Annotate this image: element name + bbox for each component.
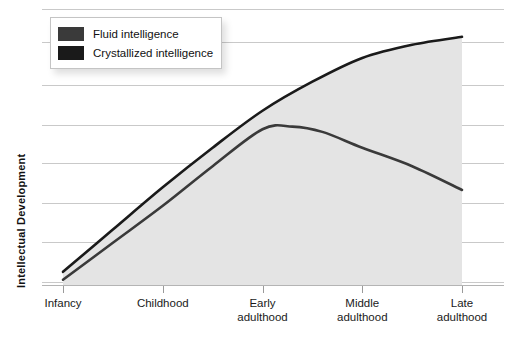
legend-item-0[interactable]: Fluid intelligence bbox=[58, 24, 213, 43]
chart-legend: Fluid intelligenceCrystallized intellige… bbox=[50, 17, 222, 69]
x-axis-tick-2 bbox=[263, 286, 264, 293]
legend-swatch-icon bbox=[58, 27, 84, 41]
x-axis-label-line2: adulthood bbox=[402, 310, 506, 324]
x-axis-tick-1 bbox=[163, 286, 164, 293]
y-axis-title: Intellectual Development bbox=[10, 0, 32, 288]
x-axis-tick-0 bbox=[63, 286, 64, 293]
legend-item-label: Crystallized intelligence bbox=[93, 47, 213, 59]
x-axis-tick-3 bbox=[362, 286, 363, 293]
x-axis-label-4: Lateadulthood bbox=[402, 296, 506, 324]
x-axis-line bbox=[42, 285, 504, 286]
x-axis-label-line1: Late bbox=[402, 296, 506, 310]
intellectual-development-chart: Intellectual Development InfancyChildhoo… bbox=[0, 0, 506, 338]
legend-swatch-icon bbox=[58, 46, 84, 60]
legend-item-label: Fluid intelligence bbox=[93, 28, 179, 40]
legend-item-1[interactable]: Crystallized intelligence bbox=[58, 43, 213, 62]
x-axis-tick-4 bbox=[462, 286, 463, 293]
